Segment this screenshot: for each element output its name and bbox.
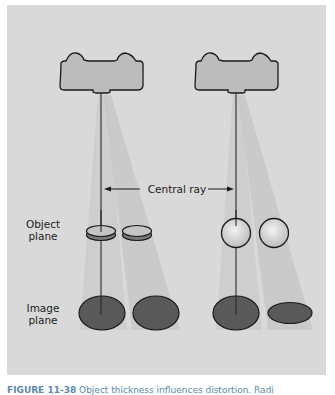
disc-object-off-axis <box>123 226 152 241</box>
object-plane-label: Object plane <box>24 218 62 242</box>
figure-number: FIGURE 11-38 <box>7 385 76 395</box>
figure-caption-text: Object thickness influences distortion. … <box>79 385 274 395</box>
central-ray-label: Central ray <box>146 183 208 195</box>
image-plane-label-line2: plane <box>24 314 62 326</box>
right-image-off-axis <box>268 303 312 324</box>
object-plane-label-line2: plane <box>24 230 62 242</box>
image-plane-label: Image plane <box>24 302 62 326</box>
left-image-on-ray <box>79 296 125 330</box>
left-image-off-axis <box>133 296 179 330</box>
figure-caption: FIGURE 11-38 Object thickness influences… <box>7 385 335 395</box>
image-plane-label-line1: Image <box>24 302 62 314</box>
left-xray-tube-head-icon <box>60 53 143 93</box>
left-beams <box>80 95 180 330</box>
right-beams <box>216 95 313 330</box>
sphere-object-off-axis <box>260 219 289 248</box>
object-plane-label-line1: Object <box>24 218 62 230</box>
right-xray-tube-head-icon <box>195 53 278 93</box>
